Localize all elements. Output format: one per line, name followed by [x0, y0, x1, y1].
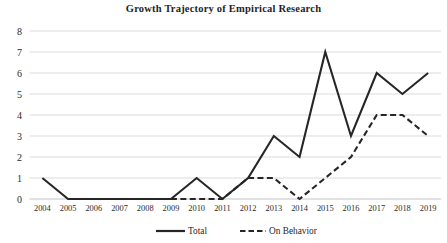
x-tick-label-2009: 2009 [163, 204, 180, 213]
x-tick-label-2017: 2017 [368, 204, 385, 213]
x-tick-label-2010: 2010 [188, 204, 205, 213]
x-tick-label-2014: 2014 [291, 204, 309, 213]
x-tick-label-2004: 2004 [34, 204, 52, 213]
y-tick-label-2: 2 [17, 152, 22, 163]
y-tick-label-4: 4 [17, 110, 22, 121]
x-tick-label-2005: 2005 [60, 204, 77, 213]
legend-label-total: Total [188, 226, 207, 236]
y-tick-label-6: 6 [17, 68, 22, 79]
x-tick-label-2008: 2008 [137, 204, 154, 213]
y-axis-tick-labels: 012345678 [17, 26, 22, 205]
x-tick-label-2019: 2019 [420, 204, 437, 213]
x-tick-label-2007: 2007 [111, 204, 128, 213]
y-tick-label-7: 7 [17, 47, 22, 58]
x-tick-label-2012: 2012 [240, 204, 257, 213]
y-tick-label-3: 3 [17, 131, 22, 142]
x-tick-label-2015: 2015 [317, 204, 334, 213]
x-tick-label-2018: 2018 [394, 204, 411, 213]
x-axis-tick-labels: 2004200520062007200820092010201120122013… [34, 204, 437, 213]
y-tick-label-1: 1 [17, 173, 22, 184]
y-tick-label-5: 5 [17, 89, 22, 100]
legend-label-on-behavior: On Behavior [269, 226, 318, 236]
x-tick-label-2006: 2006 [85, 204, 102, 213]
x-tick-label-2016: 2016 [343, 204, 360, 213]
chart-legend: Total On Behavior [156, 226, 318, 236]
chart-container: Growth Trajectory of Empirical Research … [0, 0, 447, 243]
y-tick-label-0: 0 [17, 194, 22, 205]
gridlines-group [30, 31, 442, 199]
chart-plot-area: 012345678 200420052006200720082009201020… [0, 0, 447, 243]
y-tick-label-8: 8 [17, 26, 22, 37]
x-tick-label-2013: 2013 [265, 204, 282, 213]
x-tick-label-2011: 2011 [214, 204, 230, 213]
